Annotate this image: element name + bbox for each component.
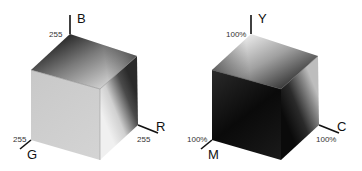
r-axis-max: 255 (137, 135, 151, 144)
y-axis-label: Y (258, 11, 267, 26)
c-axis-max: 100% (316, 135, 336, 144)
m-axis-label: M (208, 147, 219, 162)
r-axis (138, 125, 158, 133)
r-axis-label: R (156, 119, 165, 134)
m-axis-max: 100% (187, 135, 207, 144)
c-axis-label: C (337, 119, 346, 134)
c-axis (319, 125, 339, 133)
color-cubes-diagram: B 255 R 255 G 255 Y 100% C 100% M 100% (0, 0, 362, 171)
g-axis-max: 255 (13, 135, 27, 144)
g-axis-label: G (27, 147, 37, 162)
b-axis-label: B (77, 11, 86, 26)
rgb-cube: B 255 R 255 G 255 (13, 11, 165, 162)
b-axis-max: 255 (49, 30, 63, 39)
y-axis-max: 100% (226, 30, 246, 39)
cmy-cube: Y 100% C 100% M 100% (187, 11, 346, 162)
